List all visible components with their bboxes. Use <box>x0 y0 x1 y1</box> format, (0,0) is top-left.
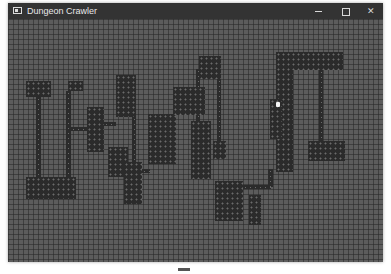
corridor <box>71 127 88 131</box>
room <box>215 181 243 221</box>
taskbar-indicator <box>178 268 190 271</box>
room <box>26 81 51 97</box>
title-bar[interactable]: Dungeon Crawler ✕ <box>8 3 383 19</box>
corridor <box>132 117 136 163</box>
minimize-icon <box>315 11 322 12</box>
room <box>124 162 142 204</box>
maximize-icon <box>342 8 350 16</box>
room <box>87 107 104 152</box>
room <box>116 75 136 117</box>
corridor <box>66 91 71 179</box>
game-window: Dungeon Crawler ✕ <box>8 3 383 262</box>
corridor <box>36 97 41 179</box>
room <box>68 81 83 91</box>
room <box>173 87 205 115</box>
room <box>308 141 345 161</box>
room <box>249 195 261 225</box>
corridor <box>319 70 323 142</box>
room <box>213 141 226 159</box>
room <box>148 114 176 164</box>
close-icon: ✕ <box>367 6 375 16</box>
dungeon-map-canvas[interactable] <box>8 19 383 262</box>
corridor <box>217 79 221 143</box>
room <box>191 121 211 179</box>
close-button[interactable]: ✕ <box>359 3 383 19</box>
window-title: Dungeon Crawler <box>27 6 97 16</box>
maximize-button[interactable] <box>334 3 358 19</box>
app-icon <box>13 7 22 14</box>
corridor <box>104 122 116 126</box>
corridor <box>142 169 150 173</box>
minimize-button[interactable] <box>306 3 330 19</box>
corridor <box>243 185 271 189</box>
player-marker <box>276 102 280 107</box>
room <box>199 56 221 79</box>
corridor <box>268 169 273 187</box>
room <box>26 177 76 199</box>
